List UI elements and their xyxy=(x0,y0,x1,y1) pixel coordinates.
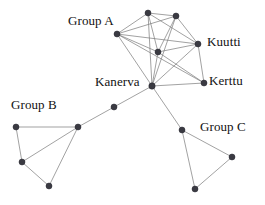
graph-edge xyxy=(198,44,204,83)
graph-edge xyxy=(158,52,204,83)
graph-edge xyxy=(158,44,198,52)
graph-node-c2 xyxy=(229,154,235,160)
graph-edge xyxy=(158,16,176,52)
graph-edge xyxy=(152,86,182,130)
graph-edge xyxy=(16,127,22,162)
group-c-label: Group C xyxy=(200,120,246,133)
graph-node-bridge xyxy=(111,104,117,110)
graph-node-kanerva xyxy=(149,83,155,89)
kuutti-node-label: Kuutti xyxy=(207,35,241,48)
graph-node-a1 xyxy=(145,10,151,16)
graph-node-c3 xyxy=(192,186,198,192)
graph-edge xyxy=(182,130,232,157)
graph-edge xyxy=(22,162,49,186)
graph-edge xyxy=(78,107,114,127)
graph-node-a3 xyxy=(114,31,120,37)
graph-edge xyxy=(114,86,152,107)
graph-edge xyxy=(182,130,195,189)
graph-node-b1 xyxy=(75,124,81,130)
group-b-label: Group B xyxy=(11,98,57,111)
graph-edge xyxy=(195,157,232,189)
graph-edge xyxy=(152,83,204,86)
network-graph-figure: Group A Group B Group C Kanerva Kuutti K… xyxy=(0,0,265,205)
graph-edge xyxy=(148,13,198,44)
graph-node-b4 xyxy=(46,183,52,189)
graph-edge xyxy=(117,13,148,34)
kanerva-node-label: Kanerva xyxy=(95,75,140,88)
kerttu-node-label: Kerttu xyxy=(209,74,243,87)
graph-node-kerttu xyxy=(201,80,207,86)
graph-node-a2 xyxy=(173,13,179,19)
graph-node-kuutti xyxy=(195,41,201,47)
graph-node-b3 xyxy=(19,159,25,165)
graph-node-a4 xyxy=(155,49,161,55)
group-a-label: Group A xyxy=(68,14,114,27)
graph-node-b2 xyxy=(13,124,19,130)
graph-edge xyxy=(176,16,198,44)
graph-node-c1 xyxy=(179,127,185,133)
